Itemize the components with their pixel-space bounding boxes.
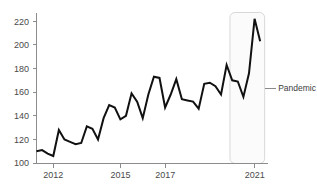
y-axis-label-140: 140 — [14, 111, 29, 121]
data-series-line — [37, 19, 261, 156]
y-axis-labels: 220 200 180 160 140 120 100 — [14, 17, 29, 169]
y-axis-ticks — [33, 21, 37, 163]
x-axis-label-2021: 2021 — [245, 170, 265, 180]
y-axis-label-200: 200 — [14, 40, 29, 50]
quarterly-line-chart: 220 200 180 160 140 120 100 2012 2015 20… — [0, 0, 317, 192]
y-axis-label-220: 220 — [14, 17, 29, 27]
y-axis-label-160: 160 — [14, 87, 29, 97]
chart-container: 220 200 180 160 140 120 100 2012 2015 20… — [0, 0, 317, 192]
y-axis-label-120: 120 — [14, 135, 29, 145]
y-axis-label-180: 180 — [14, 64, 29, 74]
x-axis-labels: 2012 2015 2017 2021 — [43, 170, 264, 180]
x-axis-label-2015: 2015 — [110, 170, 130, 180]
x-axis-ticks — [53, 164, 254, 168]
x-axis-label-2017: 2017 — [155, 170, 175, 180]
x-axis-label-2012: 2012 — [43, 170, 63, 180]
pandemic-annotation-label: Pandemic — [278, 83, 317, 93]
y-axis-label-100: 100 — [14, 158, 29, 168]
